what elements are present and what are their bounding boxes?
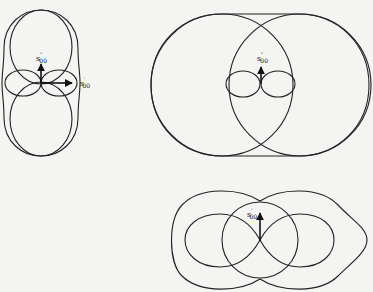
label-s-prime: s′00	[247, 207, 257, 220]
figure-left: s″00 s′00	[2, 10, 90, 156]
right-inner-lobe	[260, 214, 334, 267]
label-s-double-prime: s″00	[257, 51, 268, 64]
left-large-circle	[151, 14, 293, 156]
outer-envelope	[172, 191, 368, 289]
figure-bottom: s′00	[172, 191, 368, 289]
figure-top-right: s″00	[151, 14, 371, 156]
label-s-double-prime: s″00	[36, 51, 47, 64]
label-s-prime: s′00	[80, 76, 90, 89]
right-small-lobe	[261, 71, 295, 97]
lower-vertical-lobe	[10, 82, 72, 156]
left-small-lobe	[226, 71, 260, 97]
polar-diagrams: s″00 s′00 s″00 s′00	[0, 0, 373, 292]
